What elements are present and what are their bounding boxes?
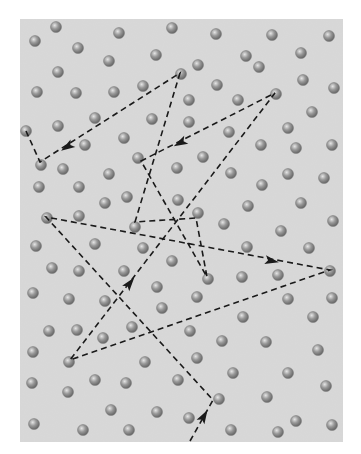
gas-molecule bbox=[217, 336, 228, 347]
gas-molecule bbox=[29, 419, 40, 430]
gas-molecule bbox=[121, 378, 132, 389]
gas-molecule bbox=[283, 368, 294, 379]
gas-molecule bbox=[28, 347, 39, 358]
gas-molecule bbox=[58, 164, 69, 175]
gas-molecule bbox=[192, 353, 203, 364]
gas-molecule bbox=[30, 36, 41, 47]
gas-molecule bbox=[212, 80, 223, 91]
gas-molecule bbox=[327, 293, 338, 304]
gas-molecule bbox=[241, 51, 252, 62]
gas-molecule bbox=[119, 133, 130, 144]
gas-molecule bbox=[276, 226, 287, 237]
gas-molecule bbox=[185, 326, 196, 337]
gas-molecule bbox=[307, 107, 318, 118]
gas-molecule bbox=[283, 294, 294, 305]
gas-molecule bbox=[74, 211, 85, 222]
gas-molecule bbox=[237, 272, 248, 283]
gas-molecule bbox=[44, 326, 55, 337]
gas-molecule bbox=[147, 114, 158, 125]
gas-molecule bbox=[90, 113, 101, 124]
gas-molecule bbox=[130, 222, 141, 233]
gas-molecule bbox=[324, 31, 335, 42]
gas-molecule bbox=[98, 333, 109, 344]
gas-molecule bbox=[127, 322, 138, 333]
gas-molecule bbox=[73, 43, 84, 54]
gas-molecule bbox=[63, 387, 74, 398]
gas-molecule bbox=[51, 22, 62, 33]
gas-molecule bbox=[214, 394, 225, 405]
gas-molecule bbox=[140, 357, 151, 368]
gas-molecule bbox=[106, 405, 117, 416]
gas-molecule bbox=[90, 239, 101, 250]
gas-molecule bbox=[152, 282, 163, 293]
gas-molecule bbox=[283, 123, 294, 134]
gas-molecule bbox=[283, 169, 294, 180]
gas-molecule bbox=[173, 195, 184, 206]
gas-molecule bbox=[291, 416, 302, 427]
gas-molecule bbox=[211, 29, 222, 40]
gas-molecule bbox=[173, 375, 184, 386]
gas-molecule bbox=[72, 325, 83, 336]
gas-molecule bbox=[238, 312, 249, 323]
gas-molecule bbox=[27, 378, 38, 389]
gas-molecule bbox=[273, 270, 284, 281]
gas-molecule bbox=[64, 294, 75, 305]
gas-molecule bbox=[31, 241, 42, 252]
gas-molecule bbox=[167, 256, 178, 267]
gas-molecule bbox=[242, 242, 253, 253]
gas-molecule bbox=[184, 117, 195, 128]
gas-molecule bbox=[109, 87, 120, 98]
gas-molecule bbox=[71, 88, 82, 99]
gas-molecule bbox=[90, 375, 101, 386]
gas-molecule bbox=[261, 337, 272, 348]
gas-molecule bbox=[219, 219, 230, 230]
gas-molecule bbox=[224, 127, 235, 138]
gas-molecule bbox=[53, 121, 64, 132]
gas-molecule bbox=[193, 208, 204, 219]
gas-molecule bbox=[321, 381, 332, 392]
gas-molecule bbox=[47, 263, 58, 274]
gas-molecule bbox=[192, 292, 203, 303]
gas-molecule bbox=[296, 48, 307, 59]
gas-molecule bbox=[104, 56, 115, 67]
gas-molecule bbox=[104, 169, 115, 180]
gas-molecule bbox=[233, 95, 244, 106]
diagram-canvas bbox=[0, 0, 361, 454]
gas-molecule bbox=[122, 192, 133, 203]
random-walk-diagram bbox=[0, 0, 361, 454]
gas-molecule bbox=[298, 75, 309, 86]
gas-molecule bbox=[157, 303, 168, 314]
gas-molecule bbox=[167, 23, 178, 34]
gas-molecule bbox=[28, 288, 39, 299]
gas-molecule bbox=[313, 345, 324, 356]
gas-molecule bbox=[327, 420, 338, 431]
gas-molecule bbox=[114, 28, 125, 39]
gas-molecule bbox=[256, 140, 267, 151]
gas-molecule bbox=[296, 198, 307, 209]
gas-molecule bbox=[119, 266, 130, 277]
gas-molecule bbox=[64, 357, 75, 368]
gas-molecule bbox=[78, 425, 89, 436]
gas-molecule bbox=[124, 425, 135, 436]
gas-molecule bbox=[226, 168, 237, 179]
gas-molecule bbox=[254, 62, 265, 73]
gas-molecule bbox=[291, 143, 302, 154]
gas-molecule bbox=[152, 407, 163, 418]
gas-molecule bbox=[100, 198, 111, 209]
gas-molecule bbox=[74, 182, 85, 193]
gas-molecule bbox=[184, 95, 195, 106]
gas-molecule bbox=[151, 50, 162, 61]
gas-molecule bbox=[325, 266, 336, 277]
gas-molecule bbox=[228, 368, 239, 379]
gas-molecule bbox=[80, 140, 91, 151]
gas-molecule bbox=[203, 274, 214, 285]
gas-molecule bbox=[308, 312, 319, 323]
gas-molecule bbox=[138, 81, 149, 92]
gas-molecule bbox=[193, 60, 204, 71]
gas-molecule bbox=[262, 392, 273, 403]
gas-molecule bbox=[133, 153, 144, 164]
gas-molecule bbox=[267, 30, 278, 41]
gas-molecule bbox=[172, 163, 183, 174]
gas-molecule bbox=[100, 296, 111, 307]
gas-molecule bbox=[138, 243, 149, 254]
